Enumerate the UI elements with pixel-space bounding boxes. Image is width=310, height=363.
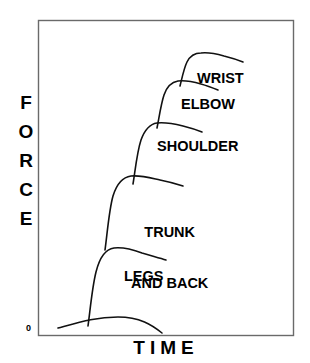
y-axis-label-letter-f: F xyxy=(20,88,32,117)
x-axis-label: TIME xyxy=(38,337,294,359)
y-axis-label-letter-c: C xyxy=(19,175,33,204)
curve-label-wrist: WRIST xyxy=(197,70,244,87)
curve-label-trunk-line1: TRUNK xyxy=(131,224,208,241)
curve-label-shoulder: SHOULDER xyxy=(157,138,238,155)
curve-label-trunk-and-back: TRUNK AND BACK xyxy=(131,190,208,326)
force-time-diagram: F O R C E 0 TIME WRIST ELBOW SHOULDER TR… xyxy=(0,0,310,363)
y-axis-label-letter-o: O xyxy=(19,117,34,146)
curve-label-legs: LEGS xyxy=(124,268,163,285)
y-axis-label-letter-e: E xyxy=(20,204,33,233)
y-axis-label-letter-r: R xyxy=(19,146,33,175)
y-axis-label: F O R C E xyxy=(12,88,40,233)
origin-tick-label: 0 xyxy=(26,323,31,333)
curve-label-elbow: ELBOW xyxy=(181,96,235,113)
